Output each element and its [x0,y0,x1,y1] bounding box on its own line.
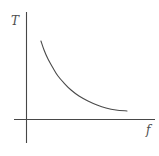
y-axis-label: T [11,14,20,28]
curve-line [41,41,127,111]
figure-svg: T f [0,0,159,156]
figure-period-vs-frequency-chart: T f [0,0,159,156]
x-axis-label: f [145,123,153,137]
